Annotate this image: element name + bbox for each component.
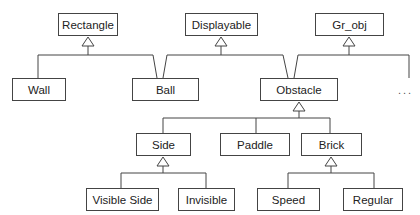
class-speed: Speed bbox=[257, 188, 320, 211]
generalization-arrow-obstacle bbox=[293, 102, 305, 111]
class-invisible: Invisible bbox=[178, 188, 235, 211]
class-side: Side bbox=[136, 133, 191, 156]
generalization-arrow-rectangle bbox=[82, 37, 94, 46]
class-ball: Ball bbox=[132, 78, 199, 101]
class-paddle: Paddle bbox=[220, 133, 290, 156]
class-obstacle: Obstacle bbox=[260, 78, 338, 101]
class-brick: Brick bbox=[301, 133, 362, 156]
generalization-arrow-brick bbox=[325, 157, 337, 166]
class-regular: Regular bbox=[343, 188, 403, 211]
ellipsis-more-classes: ... bbox=[398, 84, 413, 96]
generalization-arrow-displayable bbox=[215, 37, 227, 46]
generalization-arrow-side bbox=[157, 157, 169, 166]
class-gr-obj: Gr_obj bbox=[315, 13, 384, 36]
generalization-arrow-grobj bbox=[343, 37, 355, 46]
class-rectangle: Rectangle bbox=[58, 13, 118, 36]
class-displayable: Displayable bbox=[185, 13, 258, 36]
class-visible-side: Visible Side bbox=[86, 188, 159, 211]
class-wall: Wall bbox=[12, 78, 66, 101]
